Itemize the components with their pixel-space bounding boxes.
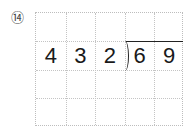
divisor-digit: 3	[66, 41, 96, 70]
dividend-digit: 9	[154, 41, 184, 70]
problem-number: ⑭	[11, 12, 23, 24]
grid-line	[36, 98, 182, 99]
divisor-digit: 4	[36, 41, 66, 70]
dividend-digit: 6	[125, 41, 155, 70]
grid-line	[36, 70, 182, 71]
answer-grid: 4 3 2 6 9	[35, 12, 183, 126]
dividend-digit: 2	[95, 41, 125, 70]
